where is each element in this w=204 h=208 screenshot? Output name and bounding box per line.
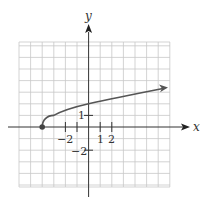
- x-axis: [8, 124, 190, 131]
- function-graph: y x −2 1 2 1 −2: [0, 0, 204, 208]
- function-curve: [42, 89, 163, 128]
- y-axis: [85, 24, 92, 197]
- x-tick-label-2: 2: [108, 133, 115, 146]
- grid: [19, 42, 170, 187]
- start-point-marker: [39, 124, 45, 130]
- y-axis-arrow-icon: [85, 24, 92, 33]
- x-tick-label-1: 1: [97, 133, 104, 146]
- x-axis-label: x: [193, 120, 200, 134]
- y-tick-label-1: 1: [78, 109, 85, 122]
- y-tick-label-neg2: −2: [71, 145, 87, 158]
- y-axis-label: y: [84, 9, 92, 23]
